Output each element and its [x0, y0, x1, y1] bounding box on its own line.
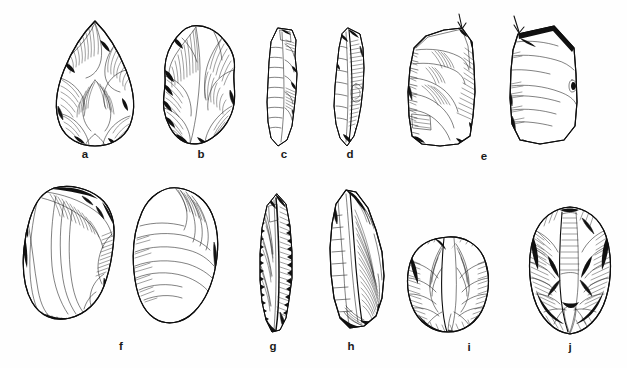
artifact-label-f: f [111, 340, 131, 352]
artifact-e-view-right [496, 12, 592, 154]
striking-platform-arrow-left [458, 14, 466, 29]
artifact-h [316, 186, 398, 338]
artifact-j [524, 204, 616, 340]
artifact-f-view-dorsal [16, 182, 126, 332]
artifact-g [244, 192, 310, 338]
artifact-e-view-left [396, 12, 488, 154]
artifact-label-i: i [459, 341, 479, 353]
artifact-label-b: b [191, 148, 211, 160]
artifact-label-c: c [274, 148, 294, 160]
artifact-c [256, 26, 312, 150]
artifact-a [48, 18, 144, 150]
artifact-label-j: j [560, 341, 580, 353]
artifact-label-h: h [341, 340, 361, 352]
artifact-d [322, 26, 378, 150]
striking-platform-arrow-right [514, 16, 524, 33]
artifact-label-a: a [75, 148, 95, 160]
artifact-f-view-ventral [122, 182, 230, 332]
artifact-label-g: g [263, 340, 283, 352]
lithic-plate: a [0, 0, 627, 368]
artifact-i [404, 234, 494, 338]
artifact-label-d: d [340, 148, 360, 160]
artifact-label-e: e [474, 150, 494, 162]
artifact-b [152, 22, 250, 150]
